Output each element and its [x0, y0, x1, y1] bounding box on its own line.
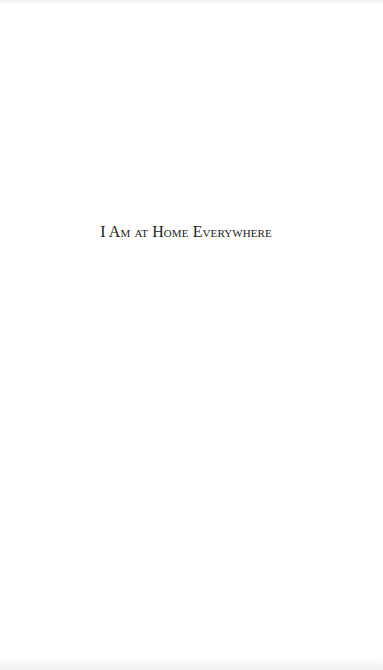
scan-edge-bottom	[0, 656, 383, 670]
scan-edge-top	[0, 0, 383, 4]
book-page: I Am at Home Everywhere	[0, 0, 383, 670]
half-title: I Am at Home Everywhere	[0, 222, 372, 242]
